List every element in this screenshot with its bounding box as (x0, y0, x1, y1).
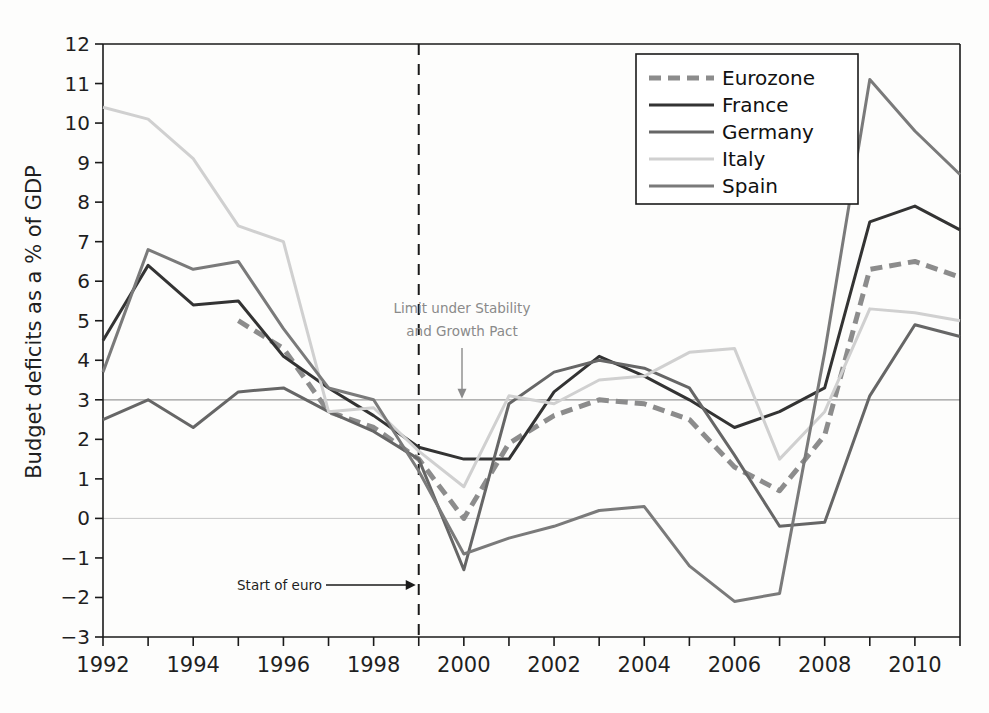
x-tick-label: 2000 (437, 653, 490, 677)
series-line-france (103, 206, 960, 459)
plot-canvas: 1211109876543210−1−2−3199219941996199820… (0, 0, 989, 713)
x-tick-label: 2004 (618, 653, 671, 677)
legend-label-germany: Germany (722, 120, 814, 144)
y-tick-label: 5 (77, 309, 90, 333)
y-tick-label: 8 (77, 190, 90, 214)
y-tick-label: −1 (61, 546, 90, 570)
x-tick-label: 2008 (798, 653, 851, 677)
x-tick-label: 1992 (76, 653, 129, 677)
y-tick-label: 7 (77, 230, 90, 254)
y-tick-label: 6 (77, 269, 90, 293)
y-tick-label: −2 (61, 585, 90, 609)
legend-label-italy: Italy (722, 147, 766, 171)
x-tick-label: 2010 (888, 653, 941, 677)
series-line-eurozone (238, 261, 960, 518)
y-tick-label: 10 (65, 111, 90, 135)
start-of-euro-label: Start of euro (237, 577, 322, 593)
y-tick-label: 0 (77, 506, 90, 530)
x-tick-label: 1996 (257, 653, 310, 677)
y-tick-label: −3 (61, 625, 90, 649)
legend-label-france: France (722, 93, 789, 117)
limit-annotation-arrow-head (458, 389, 467, 399)
y-tick-label: 12 (65, 32, 90, 56)
legend-label-spain: Spain (722, 174, 778, 198)
y-tick-label: 3 (77, 388, 90, 412)
chart-figure: Budget deficits as a % of GDP 1211109876… (0, 0, 989, 713)
x-tick-label: 1994 (166, 653, 219, 677)
start-of-euro-arrow-head (406, 580, 416, 590)
x-tick-label: 1998 (347, 653, 400, 677)
x-tick-label: 2002 (527, 653, 580, 677)
y-tick-label: 1 (77, 467, 90, 491)
y-tick-label: 4 (77, 348, 90, 372)
y-tick-label: 11 (65, 72, 90, 96)
legend-label-eurozone: Eurozone (722, 66, 815, 90)
x-tick-label: 2006 (708, 653, 761, 677)
y-tick-label: 2 (77, 427, 90, 451)
limit-annotation-line2: and Growth Pact (406, 323, 517, 339)
limit-annotation-line1: Limit under Stability (394, 300, 531, 316)
y-tick-label: 9 (77, 151, 90, 175)
